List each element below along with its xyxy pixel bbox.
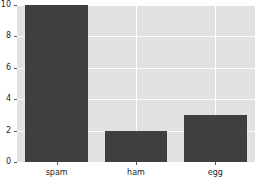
x-tick-label-spam: spam <box>46 168 68 177</box>
y-tick-label: 2 <box>0 127 11 135</box>
y-tick-mark <box>14 99 17 100</box>
y-tick-mark <box>14 131 17 132</box>
bar-ham <box>105 131 168 162</box>
bar-egg <box>184 115 247 162</box>
x-tick-mark <box>57 162 58 165</box>
y-tick-mark <box>14 68 17 69</box>
plot-area <box>17 5 255 162</box>
x-tick-label-ham: ham <box>127 168 145 177</box>
y-tick-label: 10 <box>0 1 11 9</box>
bar-spam <box>25 5 88 162</box>
y-tick-mark <box>14 5 17 6</box>
x-tick-mark <box>215 162 216 165</box>
y-tick-mark <box>14 36 17 37</box>
y-tick-mark <box>14 162 17 163</box>
y-tick-label: 0 <box>0 158 11 166</box>
x-tick-label-egg: egg <box>208 168 223 177</box>
y-tick-label: 8 <box>0 32 11 40</box>
x-tick-mark <box>136 162 137 165</box>
y-tick-label: 6 <box>0 64 11 72</box>
y-tick-label: 4 <box>0 95 11 103</box>
bar-chart-figure: 0246810 spamhamegg <box>0 0 260 186</box>
